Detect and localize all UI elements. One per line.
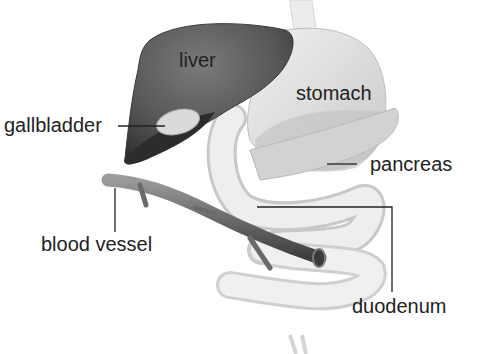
label-duodenum: duodenum: [352, 296, 447, 316]
label-liver: liver: [179, 50, 216, 70]
label-blood-vessel: blood vessel: [41, 234, 152, 254]
label-pancreas: pancreas: [370, 154, 452, 174]
label-gallbladder: gallbladder: [4, 115, 102, 135]
lower-tube: [290, 335, 306, 354]
label-stomach: stomach: [296, 83, 372, 103]
